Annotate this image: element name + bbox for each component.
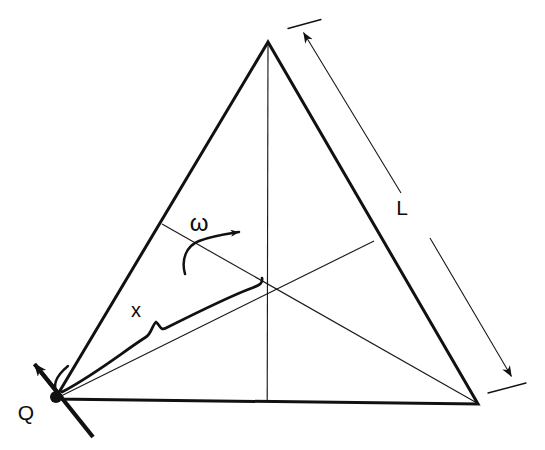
equilateral-plate-outline [55,42,478,404]
median-lines [57,44,477,403]
dimension-line-upper [304,33,402,194]
label-angular-velocity: ω [190,209,209,236]
triangle-path [55,42,478,404]
median-apex-to-base [267,44,268,401]
figure-canvas: L x Q ω [0,0,545,450]
label-side-length: L [396,196,408,219]
angular-velocity-arrow [184,232,239,274]
triangle-diagram-svg: L x Q ω [0,0,545,450]
pivot-dot [50,391,62,403]
dimension-tick-bottom [488,383,526,393]
dimension-line-lower [430,238,512,377]
dimension-tick-top [288,20,321,29]
median-left-midpoint-to-bottom-right [162,224,477,403]
label-pivot-point: Q [18,401,34,424]
label-radial-distance: x [131,299,141,321]
omega-curved-arrow-path [184,232,239,274]
median-q-to-right-midpoint [57,241,374,398]
